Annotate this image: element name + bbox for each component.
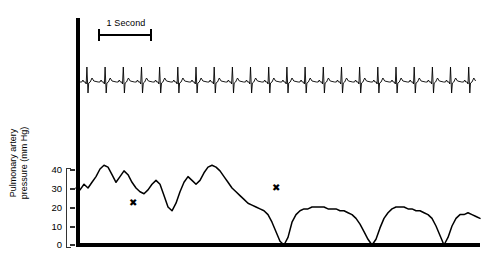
ecg-trace [80,67,476,93]
annotation-marker-2: ✖ [272,183,280,193]
waveform-layer [0,0,482,266]
annotation-marker-1: ✖ [129,198,137,208]
figure-canvas: 1 Second Pulmonary artery pressure (mm H… [0,0,482,266]
